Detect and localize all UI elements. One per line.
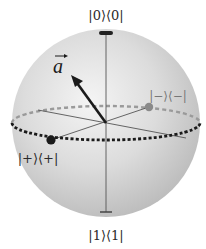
plus-state-dot — [46, 135, 55, 144]
bloch-sphere-diagram: a |0⟩⟨0| |1⟩⟨1| |+⟩⟨+| |−⟩⟨−| — [0, 0, 206, 249]
vector-label: a — [53, 55, 63, 77]
north-pole-marker — [99, 31, 113, 35]
label-minus-state: |−⟩⟨−| — [149, 89, 187, 103]
label-plus-state: |+⟩⟨+| — [18, 151, 59, 166]
minus-state-dot — [145, 103, 153, 111]
label-ket0-bra0: |0⟩⟨0| — [88, 8, 123, 23]
label-ket1-bra1: |1⟩⟨1| — [88, 228, 123, 243]
